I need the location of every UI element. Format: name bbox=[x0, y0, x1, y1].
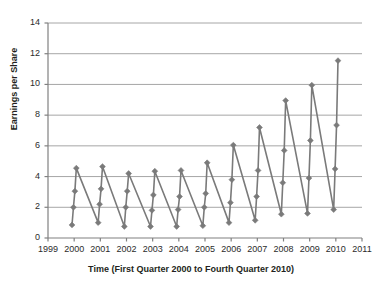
data-point-marker bbox=[332, 166, 338, 172]
data-point-marker bbox=[177, 194, 183, 200]
data-point-marker bbox=[121, 224, 127, 230]
data-point-marker bbox=[305, 211, 311, 217]
data-point-marker bbox=[201, 204, 207, 210]
data-point-marker bbox=[228, 200, 234, 206]
data-point-marker bbox=[73, 165, 79, 171]
data-point-marker bbox=[148, 224, 154, 230]
data-point-marker bbox=[254, 194, 260, 200]
data-point-marker bbox=[97, 201, 103, 207]
data-point-marker bbox=[257, 125, 263, 131]
y-tick-label: 2 bbox=[18, 201, 40, 211]
data-point-marker bbox=[230, 142, 236, 148]
x-tick-label: 2011 bbox=[347, 244, 377, 254]
data-point-marker bbox=[100, 164, 106, 170]
data-point-marker bbox=[281, 148, 287, 154]
data-point-marker bbox=[200, 223, 206, 229]
data-point-marker bbox=[149, 207, 155, 213]
data-point-marker bbox=[255, 168, 261, 174]
data-point-marker bbox=[280, 180, 286, 186]
y-tick-label: 4 bbox=[18, 171, 40, 181]
y-tick-label: 12 bbox=[18, 48, 40, 58]
data-point-marker bbox=[69, 222, 75, 228]
data-point-marker bbox=[95, 220, 101, 226]
data-point-marker bbox=[226, 220, 232, 226]
data-point-marker bbox=[150, 192, 156, 198]
y-tick-label: 0 bbox=[18, 232, 40, 242]
y-tick-label: 10 bbox=[18, 78, 40, 88]
data-point-marker bbox=[126, 171, 132, 177]
data-point-marker bbox=[229, 177, 235, 183]
data-point-marker bbox=[123, 204, 129, 210]
data-point-marker bbox=[335, 58, 341, 64]
data-point-marker bbox=[174, 224, 180, 230]
data-point-marker bbox=[307, 138, 313, 144]
data-point-marker bbox=[124, 188, 130, 194]
data-point-marker bbox=[72, 188, 78, 194]
data-point-marker bbox=[334, 122, 340, 128]
data-point-marker bbox=[278, 211, 284, 217]
data-point-marker bbox=[252, 217, 258, 223]
y-tick-label: 6 bbox=[18, 140, 40, 150]
data-point-marker bbox=[178, 168, 184, 174]
y-tick-label: 8 bbox=[18, 109, 40, 119]
data-point-marker bbox=[204, 160, 210, 166]
data-point-marker bbox=[152, 168, 158, 174]
data-point-marker bbox=[203, 191, 209, 197]
data-point-marker bbox=[283, 98, 289, 104]
data-point-marker bbox=[71, 204, 77, 210]
data-point-marker bbox=[309, 82, 315, 88]
data-point-marker bbox=[98, 186, 104, 192]
series-line bbox=[72, 61, 338, 227]
y-tick-label: 14 bbox=[18, 17, 40, 27]
earnings-per-share-chart: Earnings per Share Time (First Quarter 2… bbox=[0, 0, 382, 286]
